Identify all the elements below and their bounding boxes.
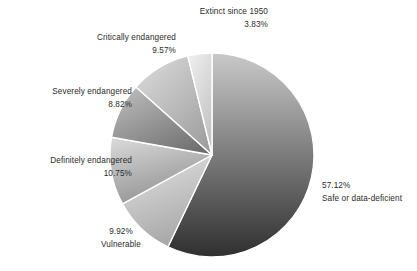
slice-label-definitely-endangered: Definitely endangered 10.75% [2, 155, 132, 180]
slice-label-extinct-since-1950: Extinct since 1950 3.83% [148, 6, 268, 31]
slice-label-name: Definitely endangered [2, 155, 132, 168]
slice-label-name: Extinct since 1950 [148, 6, 268, 19]
slice-label-percent: 8.82% [10, 99, 132, 112]
slice-label-critically-endangered: Critically endangered 9.57% [48, 32, 176, 57]
slice-label-percent: 9.57% [48, 45, 176, 58]
slice-label-name: Vulnerable [66, 239, 176, 252]
slice-label-vulnerable: 9.92% Vulnerable [66, 226, 176, 251]
pie-chart: Extinct since 1950 3.83% Critically enda… [0, 0, 417, 271]
slice-label-percent: 9.92% [66, 226, 176, 239]
slice-label-percent: 3.83% [148, 19, 268, 32]
slice-label-name: Severely endangered [10, 86, 132, 99]
slice-label-percent: 10.75% [2, 168, 132, 181]
slice-label-severely-endangered: Severely endangered 8.82% [10, 86, 132, 111]
slice-label-safe-or-data-deficient: 57.12% Safe or data-deficient [322, 180, 417, 205]
slice-label-name: Critically endangered [48, 32, 176, 45]
slice-label-percent: 57.12% [322, 180, 417, 193]
slice-label-name: Safe or data-deficient [322, 193, 417, 206]
